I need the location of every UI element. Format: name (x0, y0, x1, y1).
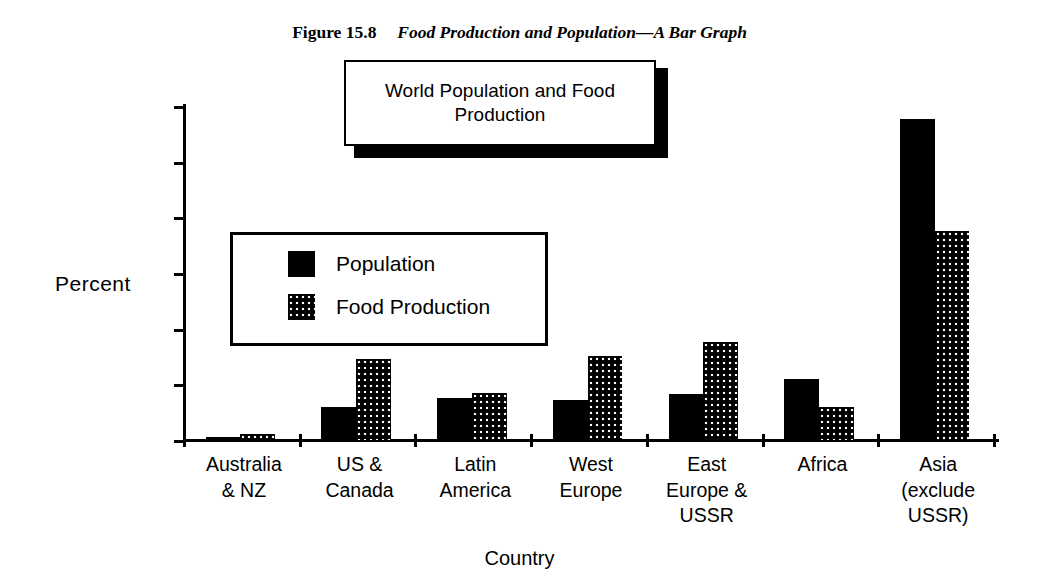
bar-food-production-4 (703, 342, 738, 440)
legend-label-population: Population (336, 252, 435, 276)
bar-food-production-5 (819, 407, 854, 440)
bar-food-production-2 (472, 393, 507, 440)
y-tick-60 (174, 106, 186, 109)
y-tick-10 (174, 384, 186, 387)
x-category-label-2: Latin America (417, 452, 533, 503)
bar-population-1 (321, 407, 356, 440)
y-tick-40 (174, 217, 186, 220)
x-category-label-4: East Europe & USSR (649, 452, 765, 529)
y-tick-30 (174, 273, 186, 276)
y-tick-50 (174, 162, 186, 165)
bar-food-production-0 (240, 434, 275, 440)
figure-title: Food Production and Population—A Bar Gra… (397, 22, 747, 42)
x-category-label-5: Africa (765, 452, 881, 478)
bar-population-5 (784, 379, 819, 440)
bar-food-production-1 (356, 359, 391, 440)
bar-population-4 (669, 394, 704, 440)
x-category-label-0: Australia & NZ (186, 452, 302, 503)
bar-food-production-6 (935, 231, 970, 440)
figure-number: Figure 15.8 (292, 22, 376, 42)
x-axis-title: Country (0, 547, 1039, 570)
bar-population-2 (437, 398, 472, 440)
bar-food-production-3 (588, 356, 623, 440)
bar-population-3 (553, 400, 588, 440)
legend-label-food-production: Food Production (336, 295, 490, 319)
bar-population-0 (206, 437, 241, 440)
bar-population-6 (900, 119, 935, 440)
x-category-label-6: Asia (exclude USSR) (880, 452, 996, 529)
legend: Population Food Production (230, 232, 548, 346)
y-tick-20 (174, 329, 186, 332)
y-axis-title: Percent (55, 272, 131, 296)
figure-caption: Figure 15.8 Food Production and Populati… (0, 22, 1039, 43)
legend-item-food-production: Food Production (288, 294, 490, 320)
legend-swatch-food-production-icon (288, 294, 315, 320)
legend-swatch-population-icon (288, 251, 315, 277)
legend-item-population: Population (288, 251, 435, 277)
x-category-label-3: West Europe (533, 452, 649, 503)
x-category-label-1: US & Canada (302, 452, 418, 503)
